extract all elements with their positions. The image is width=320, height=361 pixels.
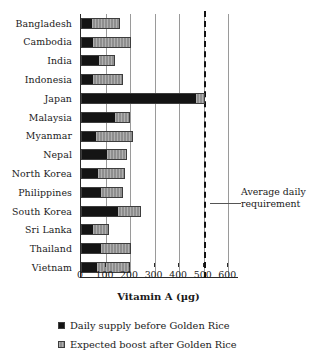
bar-segment-before-golden-rice [82, 263, 97, 272]
category-label: Japan [0, 89, 76, 108]
bar-segment-before-golden-rice [82, 75, 93, 84]
bar-row [81, 127, 238, 146]
bar-row [81, 70, 238, 89]
legend-item-label: Expected boost after Golden Rice [70, 339, 237, 350]
bar-row [81, 14, 238, 33]
bar-segment-after-golden-rice [93, 225, 108, 234]
bar-row [81, 183, 238, 202]
bar-segment-after-golden-rice [98, 169, 123, 178]
x-axis-tick [129, 263, 130, 267]
bar-segment-before-golden-rice [82, 225, 93, 234]
legend-swatch-black [58, 322, 65, 329]
bar-segment-after-golden-rice [92, 19, 119, 28]
bar-segment-after-golden-rice [93, 38, 131, 47]
stacked-bar [81, 243, 131, 254]
x-axis-tick [178, 263, 179, 267]
bar-segment-after-golden-rice [101, 188, 122, 197]
bar-row [81, 52, 238, 71]
stacked-bar [81, 149, 127, 160]
stacked-bar [81, 187, 123, 198]
x-axis-tick [227, 263, 228, 267]
x-axis-tick [154, 263, 155, 267]
category-label: Nepal [0, 145, 76, 164]
bar-row [81, 239, 238, 258]
annotation-line-1: Average daily [241, 186, 320, 198]
category-label: Bangladesh [0, 14, 76, 33]
category-label: Vietnam [0, 258, 76, 277]
x-axis-tick-label: 100 [96, 269, 114, 280]
bar-segment-before-golden-rice [82, 94, 196, 103]
stacked-bar [81, 131, 133, 142]
category-label: Thailand [0, 239, 76, 258]
category-label: Philippines [0, 183, 76, 202]
category-label: Myanmar [0, 127, 76, 146]
stacked-bar [81, 37, 131, 48]
annotation-average-daily-requirement: Average daily requirement [241, 186, 320, 210]
bar-segment-before-golden-rice [82, 188, 101, 197]
bar-row [81, 221, 238, 240]
bar-segment-after-golden-rice [101, 244, 130, 253]
x-axis-tick-label: 0 [77, 269, 83, 280]
bar-row [81, 145, 238, 164]
legend-item-label: Daily supply before Golden Rice [70, 320, 230, 331]
stacked-bar [81, 206, 141, 217]
stacked-bar [81, 74, 123, 85]
legend-item: Expected boost after Golden Rice [58, 335, 298, 354]
stacked-bar [81, 224, 109, 235]
category-label: Sri Lanka [0, 221, 76, 240]
legend-item: Daily supply before Golden Rice [58, 316, 298, 335]
x-axis-tick-label: 500 [194, 269, 212, 280]
bar-segment-before-golden-rice [82, 113, 115, 122]
bar-segment-after-golden-rice [118, 207, 140, 216]
bar-segment-before-golden-rice [82, 56, 99, 65]
bar-segment-after-golden-rice [99, 56, 114, 65]
bar-segment-after-golden-rice [196, 94, 204, 103]
bar-segment-after-golden-rice [107, 150, 126, 159]
category-axis-labels: BangladeshCambodiaIndiaIndonesiaJapanMal… [0, 14, 76, 277]
x-axis-tick-label: 400 [169, 269, 187, 280]
bar-segment-after-golden-rice [96, 132, 132, 141]
bar-row [81, 33, 238, 52]
stacked-bar [81, 112, 130, 123]
category-label: North Korea [0, 164, 76, 183]
x-axis-tick [203, 263, 204, 267]
bar-row [81, 89, 238, 108]
bar-segment-before-golden-rice [82, 150, 107, 159]
bar-row [81, 202, 238, 221]
annotation-leader-line [210, 203, 241, 204]
category-label: Indonesia [0, 70, 76, 89]
bar-row [81, 108, 238, 127]
vitamin-a-stacked-bar-chart: BangladeshCambodiaIndiaIndonesiaJapanMal… [0, 0, 320, 361]
bar-segment-after-golden-rice [115, 113, 129, 122]
category-label: South Korea [0, 202, 76, 221]
category-label: Cambodia [0, 33, 76, 52]
bar-segment-before-golden-rice [82, 207, 118, 216]
x-axis-title: Vitamin A (µg) [80, 291, 237, 302]
bar-segment-after-golden-rice [93, 75, 122, 84]
bar-segment-before-golden-rice [82, 132, 96, 141]
bar-segment-before-golden-rice [82, 244, 101, 253]
legend-swatch-gray [58, 341, 65, 348]
x-axis-tick [105, 263, 106, 267]
annotation-line-2: requirement [241, 198, 320, 210]
stacked-bar [81, 93, 205, 104]
bar-segment-before-golden-rice [82, 169, 98, 178]
category-label: India [0, 52, 76, 71]
bar-series-group [81, 14, 238, 277]
plot-area [80, 14, 238, 278]
chart-legend: Daily supply before Golden RiceExpected … [58, 316, 298, 354]
x-axis-tick [80, 263, 81, 267]
stacked-bar [81, 168, 125, 179]
bar-segment-before-golden-rice [82, 38, 93, 47]
x-axis-tick-label: 300 [145, 269, 163, 280]
x-axis-tick-label: 200 [120, 269, 138, 280]
stacked-bar [81, 18, 120, 29]
bar-row [81, 164, 238, 183]
stacked-bar [81, 55, 115, 66]
bar-segment-before-golden-rice [82, 19, 92, 28]
category-label: Malaysia [0, 108, 76, 127]
x-axis-tick-label: 600 [218, 269, 236, 280]
